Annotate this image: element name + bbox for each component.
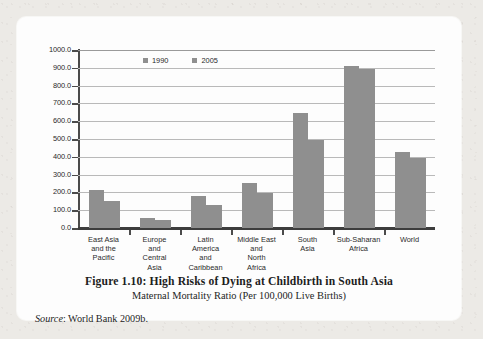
bar-2005 <box>410 158 425 228</box>
legend-label-1990: 1990 <box>152 56 168 65</box>
bar-1990 <box>395 152 410 228</box>
plot-area <box>79 50 435 228</box>
x-category-label: World <box>384 235 435 244</box>
bar-group <box>191 50 222 228</box>
source-label: Source <box>35 313 63 324</box>
figure-subtitle: Maternal Mortality Ratio (Per 100,000 Li… <box>17 290 461 301</box>
figure-card: 0.0100.0200.0300.0400.0500.0600.0700.080… <box>17 17 461 320</box>
bar-group <box>344 50 375 228</box>
y-tick-label: 0.0 <box>25 223 71 232</box>
legend-swatch-2005 <box>192 58 197 63</box>
bar-1990 <box>140 218 155 228</box>
y-tick-label: 300.0 <box>25 170 71 179</box>
legend-item-1990: 1990 <box>143 56 168 65</box>
legend-label-2005: 2005 <box>201 56 217 65</box>
bar-1990 <box>89 190 104 228</box>
bar-group <box>395 50 426 228</box>
bar-1990 <box>242 183 257 228</box>
legend-item-2005: 2005 <box>192 56 217 65</box>
y-tick-label: 400.0 <box>25 152 71 161</box>
bar-2005 <box>104 201 119 228</box>
y-tick-label: 700.0 <box>25 98 71 107</box>
bar-group <box>140 50 171 228</box>
x-category-label: Sub-SaharanAfrica <box>333 235 384 253</box>
figure-title: Figure 1.10: High Risks of Dying at Chil… <box>17 275 461 288</box>
x-category-label: SouthAsia <box>282 235 333 253</box>
bar-1990 <box>191 196 206 228</box>
x-category-label: Middle EastandNorthAfrica <box>231 235 282 272</box>
x-category-label: EuropeandCentralAsia <box>129 235 180 272</box>
bar-2005 <box>359 69 374 228</box>
source-text: : World Bank 2009b. <box>63 313 148 324</box>
y-tick-label: 1000.0 <box>25 45 71 54</box>
bar-group <box>242 50 273 228</box>
bar-2005 <box>155 220 170 228</box>
bar-2005 <box>206 205 221 228</box>
y-tick-label: 600.0 <box>25 116 71 125</box>
bar-group <box>293 50 324 228</box>
bar-chart: 0.0100.0200.0300.0400.0500.0600.0700.080… <box>17 22 461 277</box>
y-tick-label: 500.0 <box>25 134 71 143</box>
y-tick-mark <box>72 228 78 230</box>
bar-2005 <box>257 193 272 228</box>
bar-1990 <box>293 113 308 228</box>
x-category-label: East Asiaand thePacific <box>78 235 129 263</box>
chart-legend: 1990 2005 <box>143 56 218 65</box>
y-tick-label: 100.0 <box>25 205 71 214</box>
y-tick-label: 900.0 <box>25 63 71 72</box>
bar-group <box>89 50 120 228</box>
source-line: Source: World Bank 2009b. <box>35 313 148 324</box>
y-tick-label: 200.0 <box>25 187 71 196</box>
x-category-label: LatinAmericaandCaribbean <box>180 235 231 272</box>
y-tick-label: 800.0 <box>25 81 71 90</box>
bar-2005 <box>308 140 323 228</box>
figure-caption: Figure 1.10: High Risks of Dying at Chil… <box>17 275 461 301</box>
legend-swatch-1990 <box>143 58 148 63</box>
bar-1990 <box>344 66 359 228</box>
